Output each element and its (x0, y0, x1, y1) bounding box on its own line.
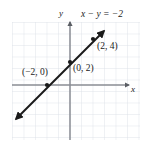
point-label-0-2: (0, 2) (73, 64, 94, 74)
point-label-2-4: (2, 4) (97, 42, 118, 52)
point-marker-neg2-0 (45, 83, 49, 87)
equation-label: x − y = −2 (81, 10, 123, 20)
point-marker-0-2 (68, 60, 72, 64)
x-axis-label: x (131, 85, 135, 94)
y-axis-label: y (59, 9, 63, 18)
point-marker-2-4 (91, 37, 95, 41)
point-label-neg2-0: (−2, 0) (22, 68, 48, 78)
grid-background (12, 22, 140, 140)
graph-figure: x − y = −2 (2, 4) (0, 2) (−2, 0) x y (0, 0, 147, 145)
